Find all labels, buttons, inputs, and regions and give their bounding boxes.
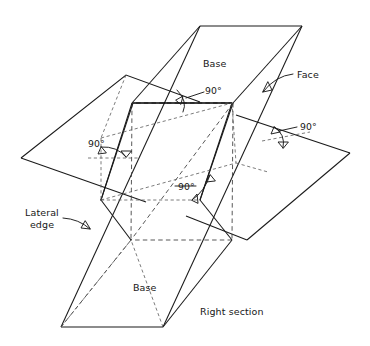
label-lateral-edge-line2: edge bbox=[30, 219, 54, 230]
label-base-top: Base bbox=[203, 58, 227, 70]
prism-right-section-figure: Base 90° Face 90° 90° 90° Lateral edge B… bbox=[0, 0, 370, 346]
label-lateral-edge: Lateral edge bbox=[18, 207, 66, 230]
figure-drawing bbox=[0, 0, 370, 346]
label-angle-left: 90° bbox=[88, 138, 105, 150]
angle-mark-top bbox=[176, 90, 204, 112]
label-angle-top: 90° bbox=[205, 85, 222, 97]
label-base-bottom: Base bbox=[133, 282, 157, 294]
label-angle-middle: 90° bbox=[178, 181, 195, 193]
label-face: Face bbox=[297, 69, 319, 81]
label-angle-right: 90° bbox=[300, 121, 317, 133]
lateral-edge-leader-line bbox=[63, 218, 90, 229]
face-leader-line bbox=[263, 74, 293, 92]
label-right-section: Right section bbox=[200, 306, 264, 318]
cutting-plane-outline bbox=[21, 75, 350, 240]
hidden-construction-lines bbox=[61, 75, 268, 327]
label-lateral-edge-line1: Lateral bbox=[25, 207, 59, 218]
lateral-edges bbox=[61, 26, 302, 327]
